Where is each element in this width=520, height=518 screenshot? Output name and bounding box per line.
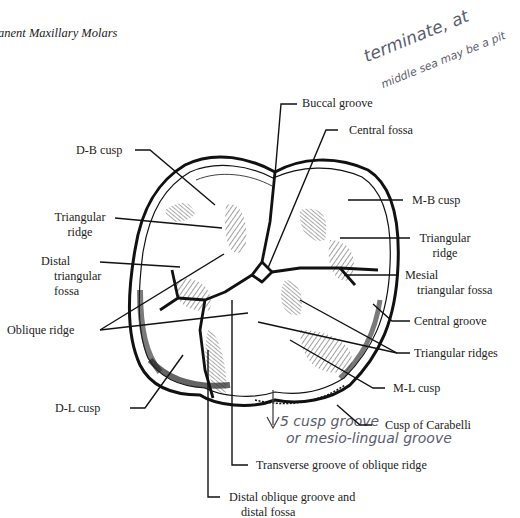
label-cusp-of-carabelli: Cusp of Carabelli [385, 418, 471, 433]
pencil-arrow [267, 390, 279, 428]
label-distal-triangular-fossa: Distal triangular fossa [41, 254, 101, 299]
label-line: ridge [414, 246, 476, 261]
label-line: triangular [41, 269, 101, 284]
label-dl-cusp: D-L cusp [55, 401, 100, 416]
label-oblique-ridge: Oblique ridge [7, 323, 74, 338]
label-central-fossa: Central fossa [349, 123, 413, 138]
label-line: distal fossa [229, 505, 355, 518]
label-line: triangular fossa [405, 283, 492, 298]
label-ml-cusp: M-L cusp [393, 381, 440, 396]
label-mb-cusp: M-B cusp [412, 193, 460, 208]
label-line: Mesial [405, 268, 492, 283]
label-triangular-ridges: Triangular ridges [414, 346, 498, 361]
label-line: Triangular [40, 210, 120, 225]
label-line: Distal [41, 254, 101, 269]
label-line: Distal oblique groove and [229, 490, 355, 505]
label-line: ridge [40, 225, 120, 240]
label-triangular-ridge-right: Triangular ridge [414, 231, 476, 261]
label-transverse-groove: Transverse groove of oblique ridge [256, 458, 427, 473]
label-line: fossa [41, 284, 101, 299]
label-buccal-groove: Buccal groove [302, 96, 373, 111]
label-line: Triangular [414, 231, 476, 246]
label-mesial-triangular-fossa: Mesial triangular fossa [405, 268, 492, 298]
label-db-cusp: D-B cusp [76, 143, 122, 158]
label-triangular-ridge-left: Triangular ridge [40, 210, 120, 240]
label-distal-oblique-groove: Distal oblique groove and distal fossa [229, 490, 355, 518]
label-central-groove: Central groove [414, 314, 487, 329]
